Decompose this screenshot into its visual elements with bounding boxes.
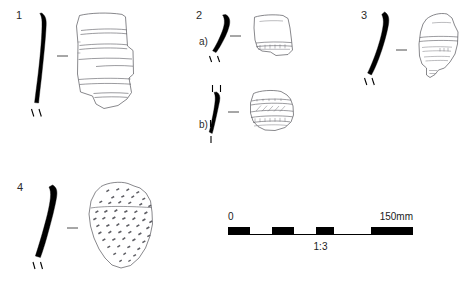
scale-baseline bbox=[228, 234, 413, 235]
figure-4-profile bbox=[35, 185, 57, 258]
figure-2a-group bbox=[210, 15, 293, 63]
figure-3-profile bbox=[368, 12, 389, 75]
figure-2b-group bbox=[209, 85, 293, 143]
figure-1-sherd-outline bbox=[77, 13, 134, 108]
figure-1-group bbox=[32, 13, 134, 117]
figure-3-group bbox=[365, 12, 459, 85]
figure-2b-profile bbox=[209, 92, 220, 134]
scale-ratio-label: 1:3 bbox=[228, 242, 413, 252]
scale-start-label: 0 bbox=[228, 212, 234, 222]
figure-2a-profile bbox=[213, 15, 230, 53]
figure-4-group bbox=[33, 182, 153, 269]
figure-1-profile bbox=[35, 13, 47, 103]
illustration-plate: 1 2 a) b) 3 4 .out { fill:#ffffff; strok… bbox=[0, 0, 470, 295]
scale-track bbox=[228, 227, 413, 235]
figure-3-sherd-outline bbox=[419, 14, 458, 78]
scale-end-label: 150mm bbox=[380, 212, 413, 222]
scale-bar: 0 150mm 1:3 bbox=[228, 212, 413, 260]
